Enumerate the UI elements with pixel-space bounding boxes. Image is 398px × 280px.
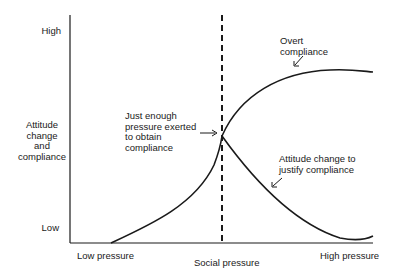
- attitude-arrow-shaft: [273, 178, 282, 186]
- y-title-line: compliance: [16, 152, 68, 163]
- x-high-label: High pressure: [320, 251, 379, 262]
- annotation-line: compliance: [280, 47, 328, 58]
- y-title-line: and: [16, 141, 68, 152]
- x-axis-title: Social pressure: [194, 258, 259, 269]
- overt-arrow-shaft: [295, 56, 303, 65]
- x-low-label: Low pressure: [77, 251, 134, 262]
- overt-annotation: Overt compliance: [280, 36, 328, 57]
- annotation-line: to obtain: [125, 132, 196, 143]
- annotation-line: Overt: [280, 36, 328, 47]
- y-title-line: Attitude: [16, 120, 68, 131]
- y-low-label: Low: [14, 223, 59, 234]
- y-axis-title: Attitude change and compliance: [16, 120, 68, 162]
- attitude-change-curve: [222, 136, 373, 240]
- annotation-line: compliance: [125, 143, 196, 154]
- annotation-line: Just enough: [125, 111, 196, 122]
- y-high-label: High: [20, 26, 61, 37]
- annotation-line: Attitude change to: [279, 154, 356, 165]
- attitude-annotation: Attitude change to justify compliance: [279, 154, 356, 175]
- overt-compliance-curve: [222, 70, 373, 136]
- threshold-annotation: Just enough pressure exerted to obtain c…: [125, 111, 196, 153]
- annotation-line: justify compliance: [279, 165, 356, 176]
